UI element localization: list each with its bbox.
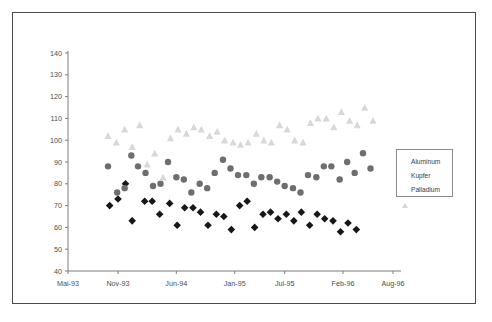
data-point-triangle	[183, 130, 190, 137]
data-point-triangle	[190, 124, 197, 131]
data-point-circle	[251, 181, 257, 187]
y-tick-label: 110	[51, 114, 62, 123]
data-point-circle	[243, 172, 249, 178]
data-point-triangle	[144, 161, 151, 168]
data-point-circle	[360, 150, 366, 156]
data-point-diamond	[243, 197, 251, 205]
y-tick-label: 140	[50, 49, 62, 58]
data-point-circle	[128, 152, 134, 158]
data-point-circle	[204, 185, 210, 191]
data-point-circle	[290, 185, 296, 191]
data-point-triangle	[206, 132, 213, 139]
data-point-triangle	[260, 137, 267, 144]
data-point-circle	[266, 174, 272, 180]
data-point-diamond	[106, 202, 114, 210]
y-tick-label: 80	[54, 179, 62, 188]
data-point-diamond	[353, 226, 361, 234]
data-point-triangle	[151, 150, 158, 157]
x-tick-label: Jan-95	[224, 279, 246, 288]
data-point-circle	[336, 176, 342, 182]
square-marker-icon	[401, 172, 408, 179]
data-point-circle	[105, 163, 111, 169]
x-tick-label: Jul-95	[275, 279, 295, 288]
data-point-circle	[328, 163, 334, 169]
data-point-diamond	[128, 217, 136, 225]
y-tick-label: 120	[50, 92, 62, 101]
diamond-marker-icon	[401, 158, 408, 165]
legend-label-kupfer: Kupfer	[411, 172, 430, 179]
data-point-triangle	[229, 139, 236, 146]
data-point-triangle	[314, 115, 321, 122]
data-point-diamond	[189, 204, 197, 212]
y-tick-label: 90	[54, 158, 62, 167]
data-point-diamond	[166, 200, 174, 208]
data-point-diamond	[259, 211, 267, 219]
data-point-diamond	[228, 226, 236, 234]
data-point-triangle	[361, 104, 368, 111]
x-tick-label: Mai-93	[57, 279, 79, 288]
data-point-circle	[258, 174, 264, 180]
data-point-triangle	[104, 132, 111, 139]
chart-legend: Aluminum Kupfer Palladium	[396, 149, 453, 197]
data-point-triangle	[369, 117, 376, 124]
data-point-diamond	[313, 211, 321, 219]
data-point-circle	[211, 170, 217, 176]
data-point-circle	[135, 163, 141, 169]
data-point-diamond	[204, 221, 212, 229]
data-point-triangle	[244, 139, 251, 146]
data-point-triangle	[136, 121, 143, 128]
y-tick-label: 60	[54, 223, 62, 232]
data-point-diamond	[298, 208, 306, 216]
data-point-circle	[188, 189, 194, 195]
data-point-circle	[321, 163, 327, 169]
data-point-triangle	[276, 121, 283, 128]
data-point-diamond	[141, 197, 149, 205]
data-point-circle	[196, 181, 202, 187]
data-point-triangle	[346, 117, 353, 124]
data-point-circle	[121, 185, 127, 191]
data-point-triangle	[291, 137, 298, 144]
chart-frame: 405060708090100110120130140Mai-93Nov-93J…	[12, 12, 476, 304]
y-tick-label: 50	[54, 245, 62, 254]
data-point-circle	[367, 165, 373, 171]
x-tick-label: Feb-96	[332, 279, 355, 288]
data-point-circle	[313, 174, 319, 180]
data-point-triangle	[221, 137, 228, 144]
legend-item-aluminum: Aluminum	[401, 154, 449, 168]
y-tick-label: 100	[50, 136, 62, 145]
data-point-triangle	[167, 134, 174, 141]
data-point-triangle	[307, 119, 314, 126]
series-kupfer	[105, 150, 374, 196]
data-point-diamond	[156, 211, 164, 219]
data-point-diamond	[220, 213, 228, 221]
data-point-circle	[114, 189, 120, 195]
data-point-circle	[351, 170, 357, 176]
data-point-diamond	[306, 221, 314, 229]
data-point-circle	[297, 189, 303, 195]
data-point-diamond	[181, 204, 189, 212]
y-tick-label: 40	[54, 267, 62, 276]
data-point-diamond	[274, 215, 282, 223]
legend-label-aluminum: Aluminum	[411, 158, 440, 165]
series-palladium	[104, 104, 376, 181]
data-point-diamond	[236, 202, 244, 210]
data-point-triangle	[330, 124, 337, 131]
data-point-diamond	[213, 211, 221, 219]
data-point-triangle	[268, 139, 275, 146]
data-point-circle	[227, 165, 233, 171]
data-point-diamond	[283, 211, 291, 219]
data-point-diamond	[321, 215, 329, 223]
triangle-marker-icon	[401, 186, 408, 193]
data-point-circle	[181, 176, 187, 182]
data-point-circle	[165, 159, 171, 165]
legend-item-kupfer: Kupfer	[401, 168, 449, 182]
data-point-diamond	[329, 217, 337, 225]
data-point-circle	[344, 159, 350, 165]
data-point-triangle	[299, 139, 306, 146]
y-tick-label: 70	[54, 201, 62, 210]
data-point-diamond	[114, 195, 122, 203]
data-point-circle	[274, 178, 280, 184]
data-point-diamond	[344, 219, 352, 227]
data-point-circle	[220, 157, 226, 163]
data-point-diamond	[337, 228, 345, 236]
